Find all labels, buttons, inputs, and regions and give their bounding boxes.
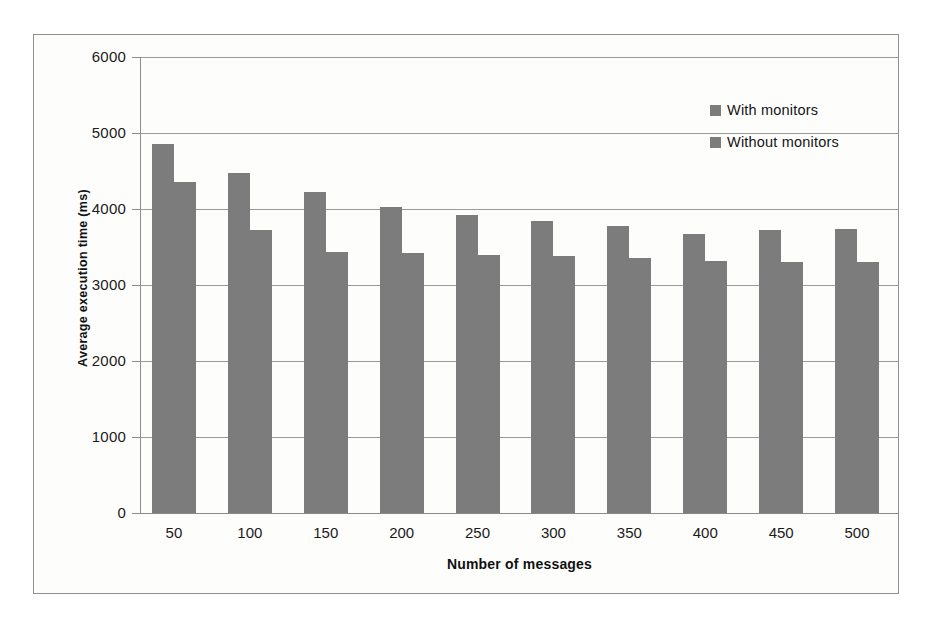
bar	[857, 262, 879, 513]
x-tick-label: 50	[136, 524, 212, 541]
bar	[174, 182, 196, 513]
plot-area	[140, 57, 899, 513]
x-tick-label: 200	[364, 524, 440, 541]
x-tick-label: 450	[743, 524, 819, 541]
x-tick-label: 400	[667, 524, 743, 541]
y-tick-mark	[132, 513, 141, 514]
y-tick-label: 1000	[66, 428, 126, 445]
bar	[152, 144, 174, 513]
bar	[402, 253, 424, 513]
bar	[456, 215, 478, 513]
bar	[781, 262, 803, 513]
x-tick-label: 100	[212, 524, 288, 541]
x-axis-title: Number of messages	[140, 556, 899, 572]
y-tick-label: 3000	[66, 276, 126, 293]
y-tick-label: 4000	[66, 200, 126, 217]
bar	[478, 255, 500, 513]
y-tick-label: 2000	[66, 352, 126, 369]
x-tick-label: 300	[515, 524, 591, 541]
bar	[683, 234, 705, 513]
y-tick-label: 5000	[66, 124, 126, 141]
bar	[380, 207, 402, 513]
x-tick-label: 500	[819, 524, 895, 541]
y-tick-label: 6000	[66, 48, 126, 65]
bar	[835, 229, 857, 513]
bar	[607, 226, 629, 513]
bar	[250, 230, 272, 513]
bar	[705, 261, 727, 513]
bar	[228, 173, 250, 513]
bar	[304, 192, 326, 513]
gridline	[140, 513, 899, 514]
x-tick-label: 250	[440, 524, 516, 541]
y-axis-tick-labels: 6000500040003000200010000	[58, 0, 126, 630]
bar	[553, 256, 575, 513]
y-tick-label: 0	[66, 504, 126, 521]
bar	[629, 258, 651, 513]
bar	[759, 230, 781, 513]
x-tick-label: 350	[591, 524, 667, 541]
x-tick-label: 150	[288, 524, 364, 541]
bar	[326, 252, 348, 513]
bar	[531, 221, 553, 513]
